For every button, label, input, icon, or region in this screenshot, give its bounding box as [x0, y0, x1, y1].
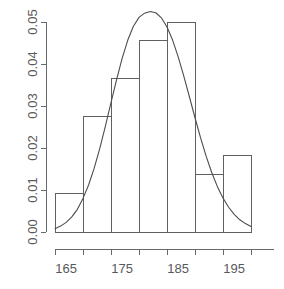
y-axis-tick-label: 0.02	[25, 135, 40, 160]
histogram-bar	[195, 174, 223, 232]
histogram-chart: 0.000.010.020.030.040.05 165175185195	[0, 0, 284, 289]
plot-canvas: 0.000.010.020.030.040.05 165175185195	[0, 0, 284, 289]
x-axis-tick-label: 195	[223, 261, 245, 276]
y-axis-tick-label: 0.01	[25, 177, 40, 202]
histogram-bars	[55, 22, 251, 232]
y-axis-tick-label: 0.03	[25, 93, 40, 118]
density-curve	[55, 12, 251, 229]
x-axis	[55, 249, 274, 255]
histogram-bar	[83, 117, 111, 232]
x-axis-tick-labels: 165175185195	[55, 261, 245, 276]
y-axis-tick-label: 0.05	[25, 9, 40, 34]
histogram-bar	[223, 155, 251, 232]
histogram-bar	[111, 79, 139, 232]
histogram-bar	[139, 40, 167, 232]
y-axis-tick-label: 0.00	[25, 219, 40, 244]
x-axis-tick-label: 175	[111, 261, 133, 276]
y-axis	[41, 22, 46, 232]
x-axis-tick-label: 185	[167, 261, 189, 276]
x-axis-tick-label: 165	[55, 261, 77, 276]
y-axis-tick-labels: 0.000.010.020.030.040.05	[25, 9, 40, 244]
histogram-bar	[167, 22, 195, 232]
y-axis-tick-label: 0.04	[25, 51, 40, 76]
